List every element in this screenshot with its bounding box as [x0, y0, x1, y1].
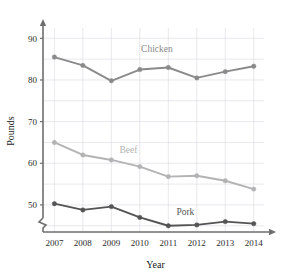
data-point	[52, 140, 56, 144]
data-point	[138, 67, 142, 71]
y-tick-label: 80	[28, 75, 38, 85]
data-point	[166, 224, 170, 228]
data-point	[252, 221, 256, 225]
chart-canvas: 5060708090200720082009201020112012201320…	[0, 0, 282, 276]
data-point	[166, 174, 170, 178]
data-point	[223, 179, 227, 183]
data-point	[81, 208, 85, 212]
data-point	[109, 158, 113, 162]
y-axis-title: Pounds	[5, 116, 16, 146]
series-label-chicken: Chicken	[141, 44, 173, 54]
data-point	[81, 153, 85, 157]
y-axis-arrowhead	[40, 19, 46, 26]
x-axis-tick-labels: 20072008200920102011201220132014	[45, 238, 263, 248]
data-point	[252, 64, 256, 68]
data-point	[195, 223, 199, 227]
y-tick-label: 60	[28, 158, 38, 168]
data-point	[109, 204, 113, 208]
data-point	[195, 174, 199, 178]
data-point	[52, 201, 56, 205]
series-line-chicken	[54, 57, 253, 81]
x-tick-label: 2012	[188, 238, 206, 248]
data-point	[166, 65, 170, 69]
data-point	[252, 187, 256, 191]
line-chart-figure: 5060708090200720082009201020112012201320…	[0, 0, 282, 276]
y-tick-label: 50	[28, 200, 38, 210]
x-axis-arrowhead	[269, 229, 276, 235]
x-tick-label: 2009	[102, 238, 121, 248]
x-axis-title: Year	[146, 259, 165, 270]
data-point	[138, 164, 142, 168]
x-tick-label: 2014	[245, 238, 264, 248]
x-tick-label: 2010	[131, 238, 150, 248]
data-point	[195, 76, 199, 80]
series-label-pork: Pork	[176, 207, 194, 217]
data-point	[138, 215, 142, 219]
data-point	[223, 69, 227, 73]
y-tick-label: 90	[28, 34, 38, 44]
x-tick-label: 2007	[45, 238, 64, 248]
x-tick-label: 2011	[159, 238, 177, 248]
data-point	[81, 63, 85, 67]
x-tick-label: 2013	[216, 238, 235, 248]
data-point	[109, 79, 113, 83]
y-axis-tick-labels: 5060708090	[28, 34, 43, 211]
y-axis-break-symbol	[39, 218, 46, 232]
gridlines	[43, 28, 264, 232]
x-tick-label: 2008	[74, 238, 93, 248]
series-label-beef: Beef	[119, 145, 138, 155]
y-tick-label: 70	[28, 117, 38, 127]
data-point	[52, 55, 56, 59]
data-point	[223, 219, 227, 223]
